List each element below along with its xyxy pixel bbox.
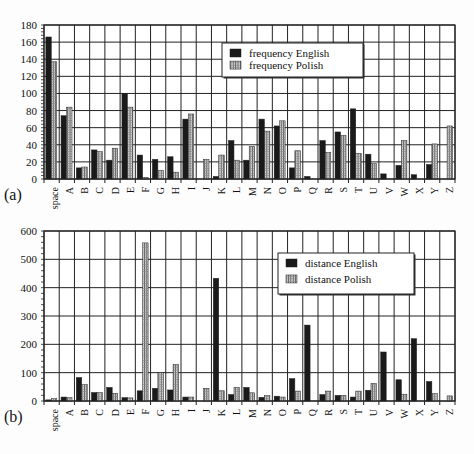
x-category-label: L bbox=[231, 187, 242, 193]
bar-english bbox=[168, 157, 173, 179]
bar-polish bbox=[371, 383, 376, 401]
bar-polish bbox=[158, 373, 163, 401]
bar-polish bbox=[112, 393, 117, 401]
y-tick-label: 100 bbox=[21, 87, 38, 99]
bar-polish bbox=[234, 387, 239, 401]
bar-polish bbox=[249, 393, 254, 401]
bar-english bbox=[152, 388, 157, 401]
bar-english bbox=[228, 394, 233, 401]
x-category-label: M bbox=[247, 187, 258, 196]
x-category-label: E bbox=[125, 409, 136, 415]
x-category-label: A bbox=[64, 186, 75, 194]
y-tick-label: 160 bbox=[21, 36, 38, 48]
bar-english bbox=[274, 126, 279, 179]
x-category-label: O bbox=[277, 187, 288, 194]
x-category-label: V bbox=[384, 408, 395, 416]
bar-english bbox=[396, 380, 401, 401]
bar-english bbox=[107, 160, 112, 179]
x-category-label: C bbox=[94, 187, 105, 194]
x-category-label: N bbox=[262, 409, 273, 416]
bar-polish bbox=[188, 114, 193, 179]
bar-polish bbox=[264, 131, 269, 179]
bar-english bbox=[365, 154, 370, 179]
bar-polish bbox=[204, 388, 209, 401]
x-category-label: K bbox=[216, 408, 227, 416]
legend-swatch-english bbox=[286, 259, 297, 267]
bar-polish bbox=[432, 144, 437, 179]
x-category-label: J bbox=[201, 409, 212, 413]
chart-frequency: 020406080100120140160180spaceABCDEFGHIJK… bbox=[21, 19, 456, 209]
bar-polish bbox=[356, 391, 361, 401]
bar-polish bbox=[295, 391, 300, 401]
x-category-label: Z bbox=[444, 187, 455, 193]
bar-english bbox=[381, 352, 386, 401]
x-category-label: M bbox=[247, 409, 258, 418]
x-category-label: Q bbox=[307, 408, 318, 416]
bar-polish bbox=[447, 126, 452, 179]
bar-english bbox=[76, 168, 81, 179]
bar-english bbox=[274, 396, 279, 401]
bar-polish bbox=[371, 164, 376, 179]
bar-polish bbox=[249, 146, 254, 179]
y-tick-label: 40 bbox=[26, 139, 38, 151]
bar-english bbox=[213, 278, 218, 401]
bar-english bbox=[426, 381, 431, 401]
y-tick-label: 200 bbox=[21, 338, 38, 350]
x-category-label: G bbox=[155, 187, 166, 194]
x-category-label: I bbox=[186, 187, 197, 190]
bar-english bbox=[137, 155, 142, 179]
bar-polish bbox=[127, 107, 132, 179]
bar-english bbox=[350, 109, 355, 179]
panel-label-a: (a) bbox=[4, 186, 22, 204]
bar-polish bbox=[280, 121, 285, 179]
bar-polish bbox=[356, 153, 361, 179]
y-tick-label: 180 bbox=[21, 19, 38, 31]
bar-polish bbox=[112, 148, 117, 179]
y-tick-label: 600 bbox=[21, 225, 38, 237]
legend-label: frequency English bbox=[249, 47, 330, 59]
bar-polish bbox=[401, 141, 406, 180]
x-category-label: I bbox=[186, 409, 197, 412]
x-category-label: T bbox=[353, 409, 364, 415]
bar-polish bbox=[219, 155, 224, 179]
x-category-label: L bbox=[231, 409, 242, 415]
y-tick-label: 300 bbox=[21, 310, 38, 322]
y-tick-label: 400 bbox=[21, 282, 38, 294]
bar-polish bbox=[341, 135, 346, 179]
bar-english bbox=[183, 119, 188, 179]
bar-english bbox=[228, 141, 233, 180]
bar-english bbox=[152, 159, 157, 179]
y-tick-label: 0 bbox=[32, 173, 38, 185]
x-category-label: space bbox=[49, 408, 60, 431]
x-category-label: N bbox=[262, 187, 273, 194]
x-category-label: Q bbox=[307, 186, 318, 194]
bar-english bbox=[244, 160, 249, 179]
y-tick-label: 140 bbox=[21, 53, 38, 65]
bar-english bbox=[396, 165, 401, 179]
x-category-label: V bbox=[384, 186, 395, 194]
bar-english bbox=[320, 141, 325, 180]
x-category-label: K bbox=[216, 186, 227, 194]
bar-english bbox=[61, 116, 66, 179]
bar-polish bbox=[432, 394, 437, 401]
y-tick-label: 120 bbox=[21, 70, 38, 82]
bar-english bbox=[320, 394, 325, 401]
bar-english bbox=[46, 37, 51, 179]
bar-english bbox=[91, 393, 96, 402]
x-category-label: X bbox=[414, 186, 425, 194]
x-category-label: R bbox=[323, 409, 334, 416]
x-category-label: P bbox=[292, 409, 303, 415]
bar-polish bbox=[447, 396, 452, 401]
bar-polish bbox=[325, 152, 330, 179]
x-category-label: space bbox=[49, 186, 60, 209]
x-category-label: R bbox=[323, 187, 334, 194]
x-category-label: B bbox=[79, 187, 90, 194]
x-category-label: P bbox=[292, 187, 303, 193]
bar-english bbox=[244, 387, 249, 401]
bar-polish bbox=[264, 396, 269, 401]
bar-polish bbox=[219, 391, 224, 401]
bar-english bbox=[365, 390, 370, 401]
bar-english bbox=[305, 325, 310, 401]
bar-polish bbox=[234, 160, 239, 179]
y-tick-label: 500 bbox=[21, 253, 38, 265]
